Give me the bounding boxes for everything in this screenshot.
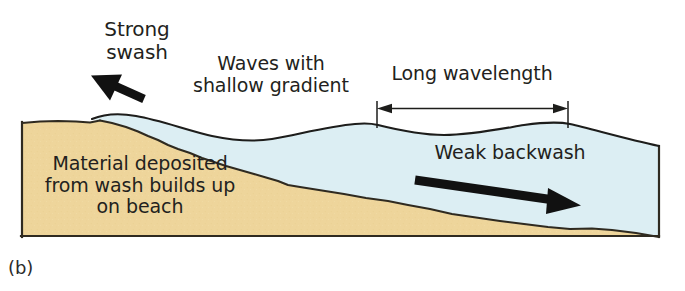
- label-strong-swash: Strong swash: [74, 18, 200, 64]
- strong-swash-arrow: [91, 75, 144, 101]
- figure-caption: (b): [8, 258, 33, 279]
- beach-profile-figure: Strong swash Waves with shallow gradient…: [0, 0, 685, 291]
- swash-arrow-shaft: [115, 86, 144, 99]
- wavelength-arrowhead-left: [377, 104, 392, 113]
- label-long-wavelength: Long wavelength: [372, 63, 572, 85]
- wavelength-arrowhead-right: [553, 104, 568, 113]
- label-weak-backwash: Weak backwash: [420, 142, 600, 164]
- label-material-deposited-on-beach: Material deposited from wash builds up o…: [26, 153, 254, 218]
- label-waves-with-shallow-gradient: Waves with shallow gradient: [186, 53, 356, 96]
